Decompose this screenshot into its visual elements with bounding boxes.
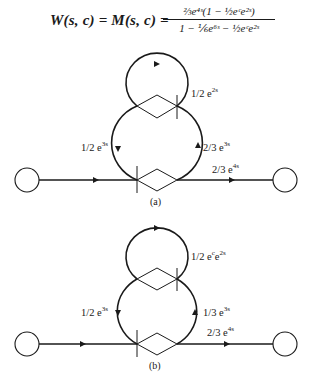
- right-branch-gain: 2/3 e3s: [203, 140, 230, 153]
- left-branch-gain: 1/2 e3s: [81, 140, 108, 153]
- upper-diamond: [137, 95, 177, 118]
- output-gain: 2/3 e4s: [207, 325, 234, 338]
- lower-diamond: [137, 333, 177, 355]
- self-loop: [126, 53, 188, 106]
- right-branch-gain: 1/3 e3s: [203, 305, 230, 318]
- caption-b: (b): [149, 360, 161, 372]
- flowgraph-b: 1/2 ece2s 1/2 e3s 1/3 e3s 2/3 e4s (b): [0, 164, 314, 378]
- input-node: [15, 332, 39, 356]
- self-loop-gain: 1/2 ece2s: [191, 249, 226, 262]
- output-node: [273, 332, 297, 356]
- self-loop: [126, 228, 188, 279]
- left-branch-gain: 1/2 e3s: [81, 305, 108, 318]
- self-loop-gain: 1/2 e2s: [191, 86, 218, 99]
- upper-diamond: [137, 268, 177, 290]
